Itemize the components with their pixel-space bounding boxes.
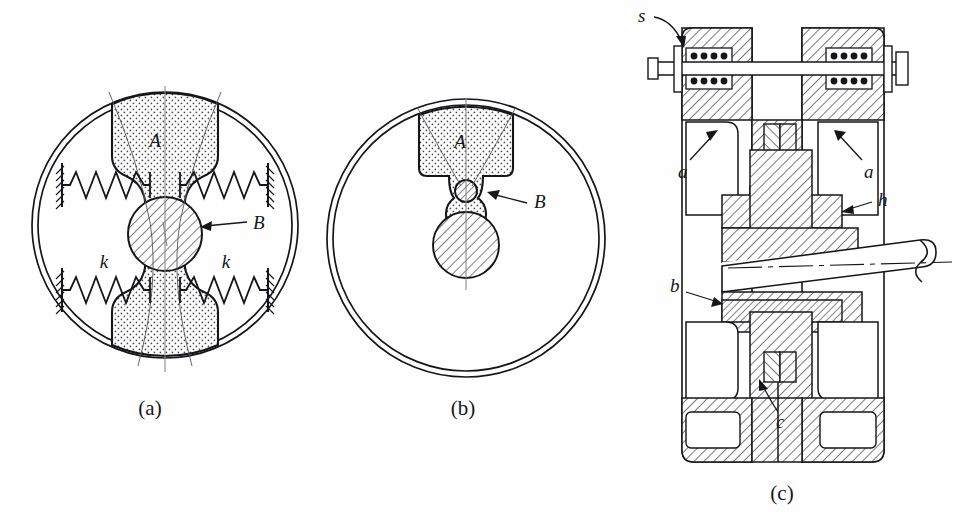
figure-sheet: A B k k (a) xyxy=(0,0,964,522)
label-hub-h: h xyxy=(878,189,888,210)
spline-tooth-left-lower xyxy=(764,352,780,382)
label-mass-a-b: A xyxy=(452,131,466,152)
caption-a: (a) xyxy=(138,396,161,420)
label-flange-a-left: a xyxy=(678,161,688,182)
label-springs-s: s xyxy=(638,5,645,26)
caption-b: (b) xyxy=(451,396,476,420)
figure-a: A B k k (a) xyxy=(0,0,330,522)
label-pivot-b-a: B xyxy=(253,212,265,233)
bottom-window-right xyxy=(820,412,876,448)
bolt-washer-right xyxy=(884,46,892,92)
label-flange-a-right: a xyxy=(864,161,874,182)
web-pocket-left-lower xyxy=(686,322,738,400)
web-pocket-right-lower xyxy=(818,322,878,400)
leader-b-b xyxy=(487,190,527,203)
spline-tooth-right-lower xyxy=(780,352,796,382)
label-pivot-b-b: B xyxy=(534,191,546,212)
label-mass-a: A xyxy=(147,130,161,151)
figure-b: A B (b) xyxy=(320,0,650,522)
leader-b-a xyxy=(200,221,247,231)
tie-rod-shaft xyxy=(656,62,904,75)
label-clearance-c: c xyxy=(776,411,785,432)
bolt-washer-left xyxy=(674,46,682,92)
bolt-head-left xyxy=(648,58,658,79)
caption-c: (c) xyxy=(770,481,793,505)
label-spring-k-right: k xyxy=(222,251,231,272)
figure-c: s a a h b c (c) xyxy=(630,0,964,522)
bolt-nut-right xyxy=(896,52,908,85)
label-bushing-b: b xyxy=(670,275,680,296)
bottom-window-left xyxy=(686,412,740,448)
label-spring-k-left: k xyxy=(100,251,109,272)
